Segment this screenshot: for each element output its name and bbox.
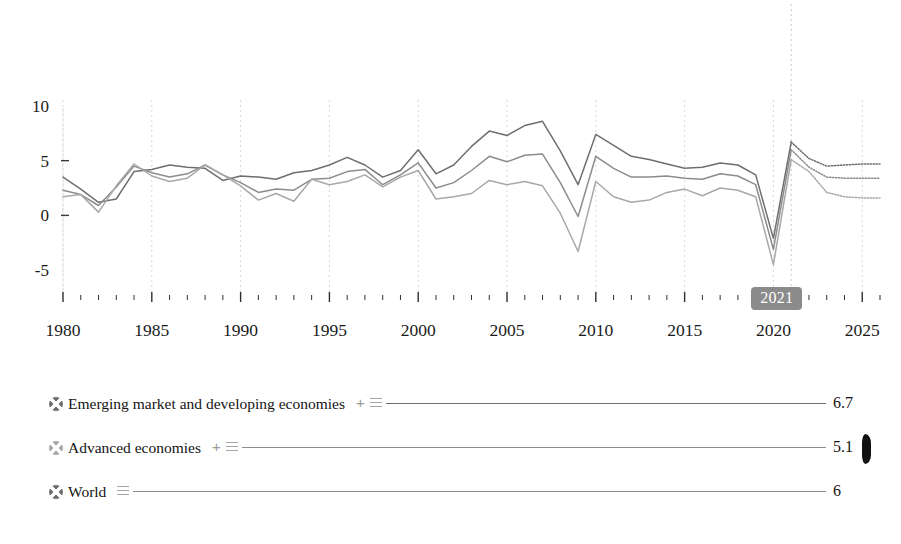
y-axis-tick-label: 5 <box>41 152 50 171</box>
x-axis-tick-label: 1995 <box>312 320 347 340</box>
x-axis-tick-label: 2015 <box>667 320 702 340</box>
hamburger-icon[interactable] <box>226 442 238 451</box>
legend-connector-line <box>242 447 826 448</box>
legend-bullet-icon <box>49 441 63 455</box>
x-axis-tick-label: 1980 <box>46 320 81 340</box>
legend-row-emerging-markets[interactable]: Emerging market and developing economies… <box>0 386 901 422</box>
x-axis-tick-label: 2025 <box>845 320 880 340</box>
legend-item-label: Emerging market and developing economies <box>68 395 345 413</box>
legend-item-label: World <box>68 483 106 501</box>
x-axis-tick-label: 2020 <box>756 320 791 340</box>
chart-page: -505101980198519901995200020052010201520… <box>0 0 901 544</box>
x-axis-tick-label: 1985 <box>134 320 169 340</box>
legend-bullet-icon <box>49 485 63 499</box>
series-line-history <box>63 121 791 238</box>
add-series-icon[interactable]: + <box>356 395 365 410</box>
x-axis-tick-label: 2000 <box>401 320 436 340</box>
legend-connector-line <box>386 403 826 404</box>
chart-plot-area: -505101980198519901995200020052010201520… <box>0 0 901 360</box>
legend-row-world[interactable]: World 6 <box>0 474 901 510</box>
legend-connector-line <box>133 491 826 492</box>
legend-item-value: 5.1 <box>833 438 853 456</box>
legend-item-value: 6 <box>833 482 841 500</box>
chart-legend: Emerging market and developing economies… <box>0 378 901 508</box>
add-series-icon[interactable]: + <box>212 439 221 454</box>
legend-bullet-icon <box>49 397 63 411</box>
selection-handle-icon[interactable] <box>862 434 871 464</box>
y-axis-tick-label: 0 <box>41 206 50 225</box>
y-axis-tick-label: 10 <box>32 97 49 116</box>
x-axis-tick-label: 2010 <box>578 320 613 340</box>
legend-item-label: Advanced economies <box>68 439 201 457</box>
hamburger-icon[interactable] <box>117 486 129 495</box>
x-axis-tick-label: 2005 <box>490 320 525 340</box>
y-axis-tick-label: -5 <box>35 261 49 280</box>
legend-item-value: 6.7 <box>833 394 853 412</box>
forecast-year-badge[interactable]: 2021 <box>751 287 802 310</box>
grid-lines <box>63 100 862 292</box>
x-axis-tick-label: 1990 <box>223 320 258 340</box>
legend-row-advanced-economies[interactable]: Advanced economies + 5.1 <box>0 430 901 466</box>
hamburger-icon[interactable] <box>370 398 382 407</box>
